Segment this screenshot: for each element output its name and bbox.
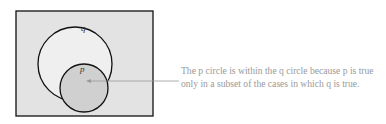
caption: The p circle is within the q circle beca… [181,64,386,90]
caption-line-1: The p circle is within the q circle beca… [181,64,386,77]
venn-diagram: q p [0,0,386,124]
caption-line-2: only in a subset of the cases in which q… [181,77,386,90]
q-label: q [81,23,86,33]
p-label: p [79,64,85,74]
